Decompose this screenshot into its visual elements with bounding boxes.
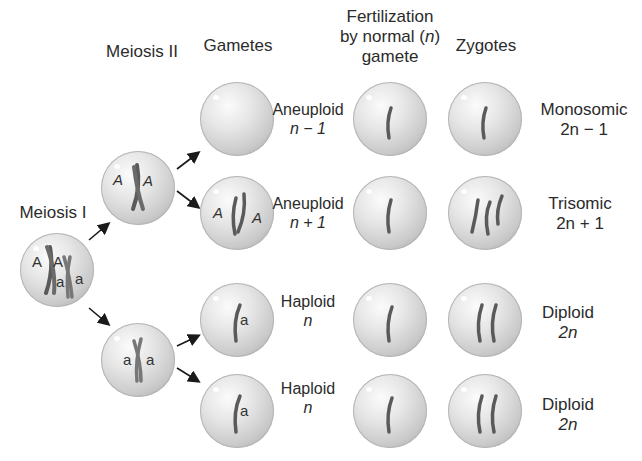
chromosomes-icon xyxy=(200,176,274,250)
parent-cell: A A a a xyxy=(20,233,94,307)
allele-label: a xyxy=(75,270,83,287)
zygote-label-row2: Trisomic 2n + 1 xyxy=(528,194,632,234)
zygote-label-row4: Diploid 2n xyxy=(528,395,608,435)
fertilization-cell-row2 xyxy=(353,176,427,250)
arrow-m2top-to-g1 xyxy=(177,153,198,169)
allele-label: a xyxy=(56,273,64,290)
arrow-m2top-to-g2 xyxy=(177,191,198,207)
allele-label: A xyxy=(32,253,42,270)
allele-label: A xyxy=(53,253,63,270)
allele-label: A xyxy=(213,204,223,221)
chromosomes-icon xyxy=(448,283,522,357)
chromosomes-icon xyxy=(448,176,522,250)
allele-label: a xyxy=(146,351,154,368)
fertilization-cell-row1 xyxy=(353,82,427,156)
allele-label: a xyxy=(240,402,248,419)
gamete-cell-row3: a xyxy=(200,283,274,357)
chromosome-icon xyxy=(200,374,274,448)
allele-label: a xyxy=(123,351,131,368)
chromosome-icon xyxy=(200,283,274,357)
fertilization-cell-row3 xyxy=(353,283,427,357)
arrow-m2bot-to-g3 xyxy=(177,336,198,346)
gamete-cell-row1 xyxy=(200,82,274,156)
arrow-m2bot-to-g4 xyxy=(177,368,198,381)
chromosome-icon xyxy=(353,82,427,156)
chromosome-icon xyxy=(101,151,175,225)
zygote-cell-row2 xyxy=(448,176,522,250)
chromosome-icon xyxy=(448,82,522,156)
zygote-cell-row3 xyxy=(448,283,522,357)
chromosome-icon xyxy=(101,323,175,397)
allele-label: A xyxy=(113,171,123,188)
gamete-label-row3: Haploid n xyxy=(268,292,348,330)
chromosome-icon xyxy=(353,176,427,250)
gamete-label-row2: Aneuploid n + 1 xyxy=(268,194,348,232)
zygote-cell-row1 xyxy=(448,82,522,156)
meiosis2-cell-top: A A xyxy=(101,151,175,225)
allele-label: A xyxy=(252,209,262,226)
zygote-cell-row4 xyxy=(448,374,522,448)
gamete-cell-row2: A A xyxy=(200,176,274,250)
allele-label: A xyxy=(143,172,153,189)
gamete-label-row1: Aneuploid n − 1 xyxy=(268,100,348,138)
chromosomes-icon xyxy=(448,374,522,448)
arrow-m1-to-m2-bottom xyxy=(89,308,108,324)
meiosis2-cell-bottom: a a xyxy=(101,323,175,397)
allele-label: a xyxy=(240,311,248,328)
zygote-label-row3: Diploid 2n xyxy=(528,303,608,343)
gamete-cell-row4: a xyxy=(200,374,274,448)
gamete-label-row4: Haploid n xyxy=(268,379,348,417)
fertilization-cell-row4 xyxy=(353,374,427,448)
chromosome-icon xyxy=(353,374,427,448)
chromosome-icon xyxy=(353,283,427,357)
zygote-label-row1: Monosomic 2n − 1 xyxy=(528,100,640,140)
